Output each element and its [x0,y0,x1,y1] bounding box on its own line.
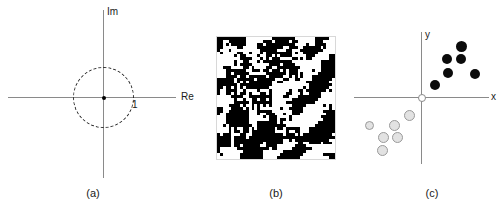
caption-b: (b) [246,188,306,199]
origin-open-circle-marker [418,94,426,102]
x-axis-label: x [491,92,496,102]
data-point-dark [443,68,453,78]
scatter-plot-area: y x [340,0,501,180]
panel-b-texture: (b) [205,0,350,216]
real-axis-label: Re [181,92,194,102]
data-point-dark [456,41,467,52]
data-point-light [365,121,374,130]
panel-a-complex-plane: Im Re 1 (a) [0,0,210,216]
texture-image [216,36,336,160]
data-point-dark [442,54,452,64]
unit-radius-label: 1 [132,100,138,110]
data-point-light [377,145,388,156]
y-axis-label: y [425,30,430,40]
panel-c-scatter: y x (c) [340,0,501,216]
origin-point-marker [102,96,106,100]
data-point-light [378,132,389,143]
data-point-dark [456,54,466,64]
three-panel-figure: Im Re 1 (a) (b) y x [0,0,501,216]
imaginary-axis-label: Im [107,7,118,17]
data-point-dark [430,80,440,90]
caption-c: (c) [402,188,462,199]
data-point-light [389,120,400,131]
data-point-light [392,132,403,143]
caption-a: (a) [63,188,123,199]
data-point-dark [470,69,480,79]
data-point-light [404,110,415,121]
